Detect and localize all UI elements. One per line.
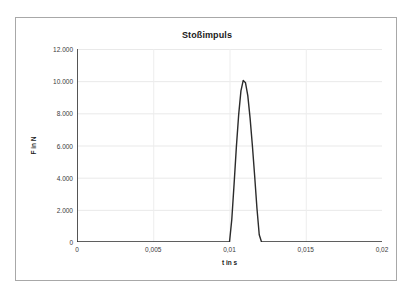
chart-frame: Stoßimpuls F in N t in s 02.0004.0006.00… <box>15 17 397 281</box>
x-axis-title: t in s <box>77 259 382 266</box>
y-axis-tick-label: 12.000 <box>53 46 73 53</box>
x-axis-tick-label: 0,015 <box>298 246 314 253</box>
x-axis-tick-label: 0 <box>75 246 79 253</box>
y-axis-tick-label: 10.000 <box>53 78 73 85</box>
y-axis-tick-label: 8.000 <box>57 110 73 117</box>
y-axis-title: F in N <box>27 49 39 242</box>
chart-title: Stoßimpuls <box>16 30 398 40</box>
y-axis-tick-label: 2.000 <box>57 206 73 213</box>
y-axis-tick-label: 4.000 <box>57 174 73 181</box>
x-axis-tick-label: 0,01 <box>223 246 236 253</box>
plot-canvas <box>77 49 382 242</box>
x-axis-tick-label: 0,02 <box>376 246 389 253</box>
x-axis-tick-label: 0,005 <box>145 246 161 253</box>
plot-area: 02.0004.0006.0008.00010.00012.00000,0050… <box>77 49 382 242</box>
chart-screenshot: Stoßimpuls F in N t in s 02.0004.0006.00… <box>0 0 413 296</box>
y-axis-title-label: F in N <box>30 136 37 154</box>
y-axis-tick-label: 6.000 <box>57 142 73 149</box>
y-axis-tick-label: 0 <box>69 239 73 246</box>
